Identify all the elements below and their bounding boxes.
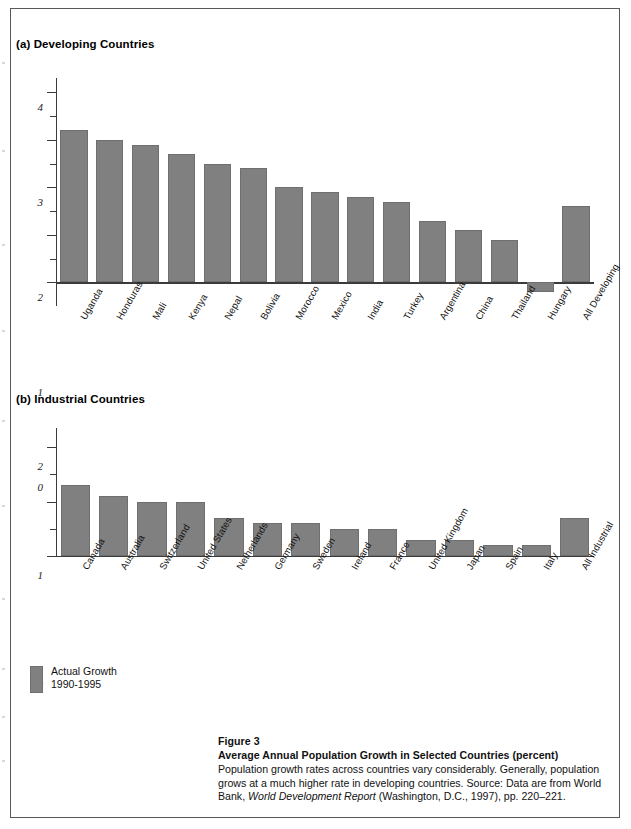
bar-slot [479,428,517,556]
bar-slot [415,78,451,306]
bar-slot [402,428,440,556]
bar-slot [363,428,401,556]
bar-spain [483,545,512,556]
bar-slot [558,78,594,306]
y-tick-1: 1 [47,235,56,236]
legend: Actual Growth 1990-1995 [30,665,117,693]
bar-slot [343,78,379,306]
bar-slot [522,78,558,306]
bar-slot [451,78,487,306]
scan-artifact [2,668,5,670]
y-tick-1.5 [50,211,56,212]
bar-china [455,230,482,282]
y-tick-3: 3 [47,140,56,141]
bar-slot [56,428,94,556]
bar-slot [379,78,415,306]
bar-slot [128,78,164,306]
bar-slot [271,78,307,306]
y-tick-1: 1 [47,502,56,503]
chart-developing-countries: 01234 UgandaHondurasMaliKenyaNepalBolivi… [16,78,596,383]
y-tick-label-2: 2 [38,291,44,303]
y-tick-label-4: 4 [38,101,44,113]
y-tick-label-3: 3 [38,196,44,208]
scan-artifact [2,244,5,246]
bar-switzerland [137,502,166,556]
legend-label: Actual Growth [51,665,117,678]
y-tick-0: 0 [47,556,56,557]
y-tick-0.5 [50,529,56,530]
caption-source-title: World Development Report [248,790,376,802]
bar-argentina [419,221,446,283]
panel-b-title: (b) Industrial Countries [16,393,145,405]
bar-slot [94,428,132,556]
bar-mexico [311,192,338,282]
scan-artifact [2,150,5,152]
plot-area-a: 01234 [56,78,594,306]
y-tick-2.5 [50,164,56,165]
bar-slot [517,428,555,556]
y-tick-label-1: 1 [38,569,44,581]
scan-artifact [2,62,5,64]
y-tick-2: 2 [47,187,56,188]
bar-slot [164,78,200,306]
legend-text: Actual Growth 1990-1995 [51,665,117,691]
scan-artifact [2,760,5,762]
panel-a-title: (a) Developing Countries [16,38,155,50]
figure-caption: Figure 3 Average Annual Population Growt… [218,735,608,804]
bar-morocco [275,187,302,282]
chart-industrial-countries: 012 CanadaAustraliaSwitzerlandUnited Sta… [16,428,596,650]
bar-bolivia [240,168,267,282]
y-tick-3.5 [50,116,56,117]
figure-title: Average Annual Population Growth in Sele… [218,749,608,763]
bar-slot [56,78,92,306]
legend-swatch [30,666,43,693]
bar-mali [132,145,159,283]
bar-all-developing [562,206,589,282]
bar-turkey [383,202,410,283]
y-tick-0: 0 [47,282,56,283]
bar-india [347,197,374,283]
bar-uganda [60,130,87,282]
scan-margin-artifacts [0,0,10,829]
scan-artifact [2,420,5,422]
bar-slot [92,78,128,306]
legend-period: 1990-1995 [51,678,117,691]
bar-nepal [204,164,231,283]
bar-slot [199,78,235,306]
bars-a [56,78,594,306]
bar-honduras [96,140,123,283]
bar-canada [61,485,90,556]
scan-artifact [2,505,5,507]
figure-description: Population growth rates across countries… [218,763,608,804]
caption-text-part2: (Washington, D.C., 1997), pp. 220–221. [376,790,566,802]
y-tick-label-2: 2 [38,460,44,472]
bar-all-industrial [560,518,589,556]
y-tick-0.5 [50,259,56,260]
bar-thailand [491,240,518,283]
bar-united-kingdom [406,540,435,556]
y-tick-2: 2 [47,447,56,448]
scan-artifact [2,716,5,718]
y-tick-4: 4 [47,92,56,93]
bar-slot [307,78,343,306]
scan-artifact [2,330,5,332]
bar-slot [235,78,271,306]
bar-france [368,529,397,556]
bar-kenya [168,154,195,282]
figure-number: Figure 3 [218,735,608,749]
bar-slot [486,78,522,306]
y-tick-1.5 [50,474,56,475]
scan-artifact [2,598,5,600]
bar-slot [556,428,594,556]
